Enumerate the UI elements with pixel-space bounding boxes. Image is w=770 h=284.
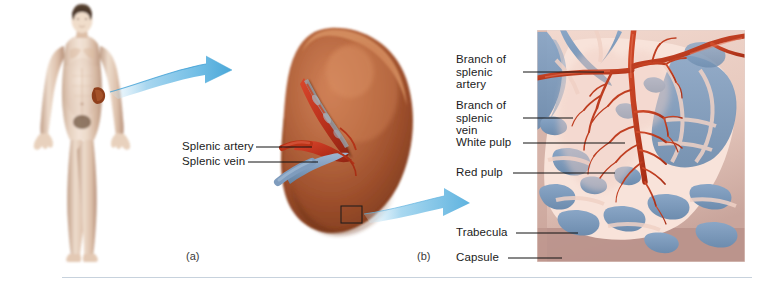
label-line-2: splenic [456,66,493,78]
label-splenic-artery: Splenic artery [182,140,254,153]
label-splenic-vein: Splenic vein [182,155,245,168]
footer-divider [62,277,752,278]
label-branch-of-splenic-artery: Branch ofsplenicartery [456,53,506,91]
caption-a: (a) [186,250,199,262]
label-trabecula: Trabecula [456,226,508,239]
label-line-2: splenic [456,112,493,124]
label-line-3: vein [456,124,478,136]
label-red-pulp: Red pulp [456,166,503,179]
caption-b: (b) [417,250,430,262]
label-line-1: Branch of [456,99,506,111]
label-branch-of-splenic-vein: Branch ofsplenicvein [456,99,506,137]
spleen-figure [0,0,770,284]
panel-c-microanatomy [537,28,745,262]
label-white-pulp: White pulp [456,136,511,149]
label-line-3: artery [456,78,486,90]
label-capsule: Capsule [456,251,499,264]
label-line-1: Branch of [456,53,506,65]
